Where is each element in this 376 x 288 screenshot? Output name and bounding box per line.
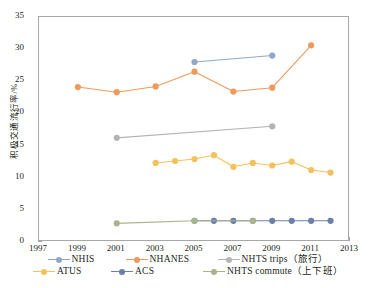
data-point [114, 89, 120, 95]
data-point [250, 218, 256, 224]
data-point [269, 162, 275, 168]
data-point [269, 218, 275, 224]
data-point [172, 158, 178, 164]
data-point [114, 220, 120, 226]
data-point [308, 167, 314, 173]
legend-label: ACS [135, 266, 154, 277]
legend-item[interactable]: NHANES [126, 254, 218, 265]
data-point [269, 52, 275, 58]
legend-label: NHTS trips（旅行） [242, 254, 329, 265]
series-nhis [191, 52, 275, 65]
legend-item[interactable]: NHIS [48, 254, 126, 265]
y-tick-label: 25 [0, 75, 24, 84]
plot-area [38, 16, 349, 241]
legend-marker-icon [111, 267, 133, 276]
data-point [230, 88, 236, 94]
legend-marker-icon [33, 267, 55, 276]
legend-label: NHIS [72, 254, 95, 265]
data-point [191, 156, 197, 162]
data-point [250, 160, 256, 166]
data-point [308, 42, 314, 48]
data-point [308, 218, 314, 224]
data-point [191, 59, 197, 65]
data-point [114, 135, 120, 141]
data-point [327, 218, 333, 224]
legend-label: NHTS commute（上下班） [227, 266, 343, 277]
y-tick-label: 30 [0, 43, 24, 52]
data-point [269, 123, 275, 129]
legend-label: ATUS [57, 266, 82, 277]
legend-item[interactable]: NHTS trips（旅行） [218, 254, 329, 265]
data-point [75, 84, 81, 90]
legend-marker-icon [126, 255, 148, 264]
legend-marker-icon [218, 255, 240, 264]
data-point [327, 169, 333, 175]
y-tick-label: 20 [0, 107, 24, 116]
series-nhts-trips [114, 123, 276, 141]
legend-item[interactable]: ATUS [33, 266, 111, 277]
series-line [156, 155, 331, 172]
data-point [269, 85, 275, 91]
data-point [191, 69, 197, 75]
series-nhanes [75, 42, 314, 95]
chart-figure: 积极交通流行率/% 05101520253035 199719992001200… [0, 0, 376, 288]
data-point [153, 83, 159, 89]
legend-item[interactable]: NHTS commute（上下班） [203, 266, 343, 277]
series-line [117, 126, 273, 138]
legend-row: ATUSACSNHTS commute（上下班） [33, 266, 343, 277]
data-point [153, 160, 159, 166]
data-point [289, 159, 295, 165]
data-point [191, 218, 197, 224]
legend-marker-icon [203, 267, 225, 276]
y-tick-label: 15 [0, 140, 24, 149]
legend-label: NHANES [150, 254, 190, 265]
series-canvas [39, 17, 350, 242]
data-point [211, 152, 217, 158]
legend-marker-icon [48, 255, 70, 264]
series-line [195, 56, 273, 62]
data-point [289, 218, 295, 224]
chart-legend: NHISNHANESNHTS trips（旅行）ATUSACSNHTS comm… [0, 254, 376, 277]
legend-row: NHISNHANESNHTS trips（旅行） [48, 254, 329, 265]
y-tick-label: 10 [0, 172, 24, 181]
data-point [230, 164, 236, 170]
y-tick-label: 35 [0, 11, 24, 20]
series-atus [153, 152, 334, 176]
x-tick-label: 2013 [326, 243, 372, 253]
y-tick-label: 5 [0, 204, 24, 213]
legend-item[interactable]: ACS [111, 266, 203, 277]
